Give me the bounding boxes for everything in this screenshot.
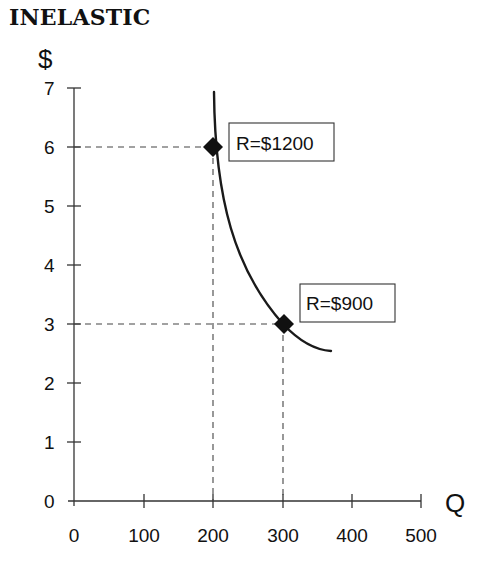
x-tick-labels: 0 100 200 300 400 500 (69, 525, 437, 546)
annotation-revenue-b: R=$900 (300, 284, 395, 322)
point-marker-a (203, 137, 223, 157)
y-axis (67, 88, 81, 506)
svg-text:400: 400 (336, 525, 368, 546)
y-tick-labels: 0 1 2 3 4 5 6 7 (44, 78, 55, 512)
svg-text:6: 6 (44, 137, 55, 158)
svg-text:5: 5 (44, 196, 55, 217)
x-axis (68, 494, 421, 508)
svg-text:7: 7 (44, 78, 55, 99)
svg-text:R=$1200: R=$1200 (236, 133, 314, 154)
chart-canvas: $ Q 0 1 2 3 4 5 6 7 0 100 200 300 400 50… (0, 0, 490, 583)
svg-text:R=$900: R=$900 (306, 293, 373, 314)
svg-text:0: 0 (69, 525, 80, 546)
svg-text:0: 0 (44, 491, 55, 512)
svg-text:3: 3 (44, 314, 55, 335)
svg-text:100: 100 (128, 525, 160, 546)
y-axis-title: $ (38, 44, 53, 74)
x-axis-title: Q (445, 488, 465, 518)
svg-text:2: 2 (44, 373, 55, 394)
annotation-revenue-a: R=$1200 (229, 123, 334, 161)
svg-text:1: 1 (44, 432, 55, 453)
svg-text:300: 300 (267, 525, 299, 546)
svg-text:500: 500 (405, 525, 437, 546)
svg-text:4: 4 (44, 255, 55, 276)
svg-text:200: 200 (197, 525, 229, 546)
guide-lines (74, 147, 283, 501)
